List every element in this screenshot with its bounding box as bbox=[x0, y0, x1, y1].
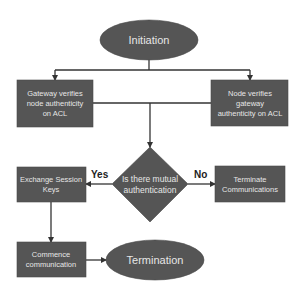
commence-comm-node: Commence communication bbox=[17, 242, 86, 277]
commence-comm-line-1: Commence bbox=[32, 250, 70, 259]
gateway-verifies-line-1: Gateway verifies bbox=[27, 89, 83, 98]
initiation-label: Initiation bbox=[129, 34, 170, 46]
node-verifies-line-2: gateway bbox=[236, 99, 264, 108]
no-label: No bbox=[194, 169, 207, 180]
decision-line-2: authentication bbox=[124, 185, 177, 195]
decision-node: Is there mutual authentication bbox=[112, 147, 188, 222]
node-verifies-line-3: authenticity on ACL bbox=[218, 109, 283, 118]
gateway-verifies-line-2: node authenticity bbox=[27, 99, 84, 108]
terminate-comm-line-2: Communications bbox=[222, 185, 278, 194]
node-verifies-node: Node verifies gateway authenticity on AC… bbox=[211, 80, 288, 126]
terminate-comm-box bbox=[215, 166, 285, 202]
gateway-verifies-node: Gateway verifies node authenticity on AC… bbox=[17, 80, 93, 127]
gateway-verifies-line-3: on ACL bbox=[43, 109, 68, 118]
initiation-node: Initiation bbox=[100, 20, 198, 60]
termination-label: Termination bbox=[127, 254, 184, 266]
exchange-keys-line-1: Exchange Session bbox=[20, 175, 82, 184]
node-verifies-line-1: Node verifies bbox=[228, 89, 272, 98]
terminate-comm-line-1: Terminate bbox=[234, 175, 267, 184]
yes-label: Yes bbox=[91, 169, 109, 180]
terminate-comm-node: Terminate Communications bbox=[215, 166, 285, 202]
decision-line-1: Is there mutual bbox=[122, 174, 178, 184]
exchange-keys-line-2: Keys bbox=[43, 185, 60, 194]
commence-comm-line-2: communication bbox=[26, 260, 76, 269]
termination-node: Termination bbox=[106, 240, 204, 280]
flowchart-canvas: Yes No Initiation Gateway verifies node … bbox=[0, 0, 299, 298]
exchange-keys-node: Exchange Session Keys bbox=[17, 167, 86, 202]
